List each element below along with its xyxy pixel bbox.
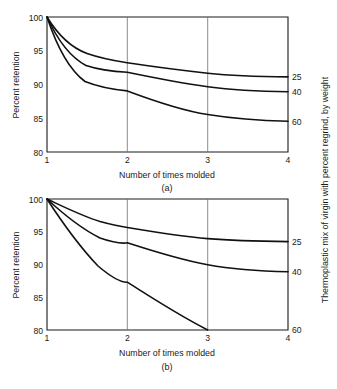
panel-a-plot-frame [47,17,288,152]
panel-a-xtick-3: 3 [205,155,210,165]
panel-b-xtick-4: 4 [286,333,291,343]
panel-b-y-axis-title: Percent retention [11,231,21,298]
panel-a-ytick-95: 95 [33,46,43,56]
panel-b-plot-frame [47,199,288,330]
panel-b-series-label-40: 40 [292,267,302,277]
panel-a-series-label-60: 60 [292,117,302,127]
panel-b-xtick-3: 3 [205,333,210,343]
panel-a-curve-25 [47,17,288,77]
panel-a-series-label-25: 25 [292,72,302,82]
panel-b-xtick-1: 1 [45,333,50,343]
panel-b-series-label-25: 25 [292,237,302,247]
panel-b-ytick-85: 85 [33,293,43,303]
two-panel-line-chart: 100 95 90 85 80 1 2 3 4 25 40 60 Percent… [0,0,337,389]
panel-a-ytick-80: 80 [33,148,43,158]
panel-a-caption: (a) [162,183,173,193]
panel-b-ytick-90: 90 [33,260,43,270]
panel-a-xtick-4: 4 [286,155,291,165]
panel-b-curve-40 [47,199,288,272]
panel-b-ytick-80: 80 [33,326,43,336]
right-axis-title: Thermoplastic mix of virgin with percent… [320,76,330,303]
panel-a: 100 95 90 85 80 1 2 3 4 25 40 60 Percent… [11,13,302,194]
panel-a-xtick-2: 2 [125,155,130,165]
panel-b-ytick-95: 95 [33,227,43,237]
panel-a-ytick-100: 100 [29,13,44,23]
panel-b-xtick-2: 2 [125,333,130,343]
panel-b-curve-25 [47,199,288,242]
panel-a-xtick-1: 1 [45,155,50,165]
panel-b: 100 95 90 85 80 1 2 3 4 25 40 60 Percent… [11,195,302,373]
figure-container: 100 95 90 85 80 1 2 3 4 25 40 60 Percent… [0,0,337,389]
panel-a-ytick-85: 85 [33,114,43,124]
panel-b-caption: (b) [162,362,173,372]
panel-b-series-label-60: 60 [292,325,302,335]
panel-b-ytick-100: 100 [29,195,44,205]
panel-a-series-label-40: 40 [292,87,302,97]
panel-a-ytick-90: 90 [33,80,43,90]
panel-a-x-axis-title: Number of times molded [119,170,215,180]
panel-b-x-axis-title: Number of times molded [119,348,215,358]
panel-a-y-axis-title: Percent retention [11,51,21,118]
